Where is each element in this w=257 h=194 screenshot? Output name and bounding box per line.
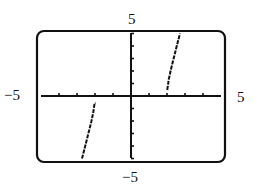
curve-left-branch [82,103,96,158]
curve-right-branch [167,34,181,89]
ymax-label: 5 [128,12,136,27]
graphing-calculator-screen [0,0,257,194]
ymin-label: −5 [122,170,138,185]
xmin-label: −5 [4,88,20,103]
xmax-label: 5 [237,90,245,105]
